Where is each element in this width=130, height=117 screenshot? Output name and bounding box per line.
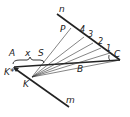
label-s: S: [38, 48, 44, 58]
label-c: C: [114, 49, 121, 59]
label-3: 3: [88, 30, 93, 39]
label-2: 2: [98, 37, 103, 46]
label-kstar: K*: [4, 67, 15, 77]
label-x: x: [24, 48, 31, 58]
label-p: P: [60, 24, 66, 34]
label-1: 1: [106, 44, 111, 53]
label-b: B: [77, 64, 83, 74]
label-a: A: [8, 48, 15, 58]
brace-x: [13, 57, 44, 64]
geometry-diagram: n P 4 3 2 1 C A x S K* K B m: [0, 0, 130, 117]
label-m: m: [66, 95, 75, 105]
label-n: n: [59, 4, 65, 14]
label-k: K: [23, 79, 30, 89]
label-4: 4: [80, 25, 85, 34]
